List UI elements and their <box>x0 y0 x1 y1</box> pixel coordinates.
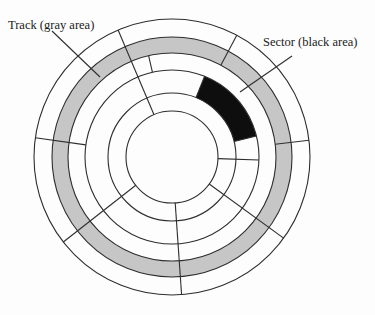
disk-circle-2 <box>68 53 276 261</box>
disk-geometry <box>34 19 310 295</box>
sector-boundary-line <box>175 203 181 295</box>
sector-label: Sector (black area) <box>263 35 357 49</box>
disk-circle-0 <box>34 19 310 295</box>
sector-boundary-line <box>149 56 153 72</box>
track-pointer-line <box>52 31 100 77</box>
disk-circle-5 <box>126 111 218 203</box>
gray-track-ring <box>60 45 284 269</box>
sector-boundary-line <box>218 159 259 160</box>
disk-circle-4 <box>108 93 236 221</box>
disk-diagram: Track (gray area) Sector (black area) <box>0 0 375 315</box>
track-label: Track (gray area) <box>8 18 94 32</box>
disk-figure: Track (gray area) Sector (black area) <box>0 0 375 315</box>
